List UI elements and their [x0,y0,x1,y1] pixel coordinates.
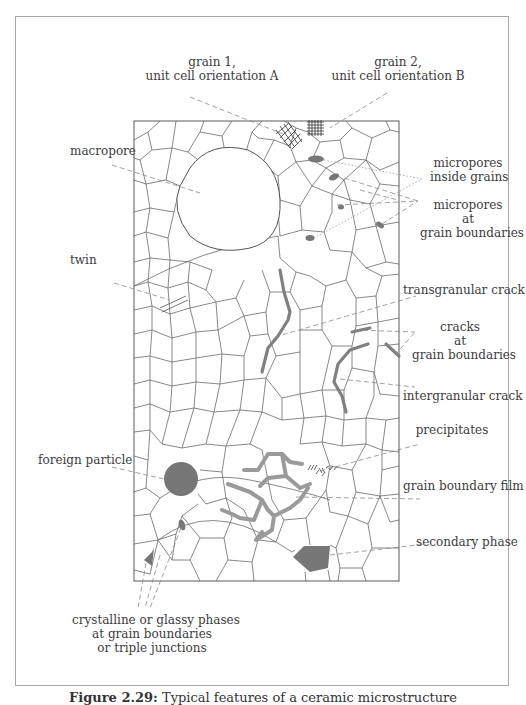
boundary-crack-path-1 [352,328,370,332]
label-micropores-boundaries-line2: at [420,212,516,226]
caption-number: Figure 2.29: [69,690,158,705]
intergranular-crack-path [334,344,368,412]
label-micropores-inside: micropores inside grains [430,156,506,184]
foreign-particle-shape [164,462,198,496]
label-micropores-boundaries-line3: grain boundaries [420,226,516,240]
label-grain1-line2: unit cell orientation A [144,69,280,83]
label-transgranular-crack: transgranular crack [403,283,515,297]
label-grain2: grain 2, unit cell orientation B [328,55,468,83]
macropore-shape [177,147,280,250]
label-micropores-inside-line2: inside grains [430,170,506,184]
label-precipitates: precipitates [412,423,492,437]
label-macropore: macropore [70,144,136,158]
label-micropores-inside-line1: micropores [430,156,506,170]
dotted-leaders [314,160,422,238]
caption-text: Typical features of a ceramic microstruc… [162,690,457,705]
secondary-phase-shape [293,546,330,572]
label-glassy-phases-line3: or triple junctions [72,641,232,655]
label-glassy-phases: crystalline or glassy phases at grain bo… [72,613,232,655]
label-cracks-boundaries-line2: at [412,334,508,348]
label-secondary-phase: secondary phase [416,535,512,549]
label-grain2-line2: unit cell orientation B [328,69,468,83]
label-grain1-line1: grain 1, [144,55,280,69]
glassy-phase-shapes [144,519,187,566]
grain2-hatch [307,120,324,136]
label-cracks-boundaries-line3: grain boundaries [412,348,508,362]
label-grain2-line1: grain 2, [328,55,468,69]
label-grain1: grain 1, unit cell orientation A [144,55,280,83]
label-glassy-phases-line2: at grain boundaries [72,627,232,641]
cracks [262,270,399,412]
label-micropores-boundaries: micropores at grain boundaries [420,198,516,240]
boundary-crack-path-2 [386,344,399,356]
label-cracks-boundaries: cracks at grain boundaries [412,320,508,362]
figure-caption: Figure 2.29: Typical features of a ceram… [0,690,526,705]
label-glassy-phases-line1: crystalline or glassy phases [72,613,232,627]
label-twin: twin [70,253,97,267]
label-intergranular-crack: intergranular crack [403,389,513,403]
label-foreign-particle: foreign particle [38,453,132,467]
grain1-hatch [276,122,302,149]
label-micropores-boundaries-line1: micropores [420,198,516,212]
label-grain-boundary-film: grain boundary film [403,479,515,493]
label-cracks-boundaries-line1: cracks [412,320,508,334]
